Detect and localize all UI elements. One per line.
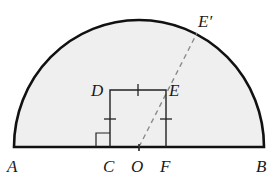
- label-b: B: [256, 157, 267, 176]
- label-c: C: [103, 157, 115, 176]
- label-f: F: [159, 157, 171, 176]
- semicircle: [14, 20, 264, 147]
- label-o: O: [131, 157, 143, 176]
- label-e: E: [168, 81, 180, 100]
- geometry-diagram: A C O F B D E E′: [0, 0, 272, 188]
- label-d: D: [90, 81, 104, 100]
- label-a: A: [6, 157, 18, 176]
- label-e-prime: E′: [197, 12, 212, 31]
